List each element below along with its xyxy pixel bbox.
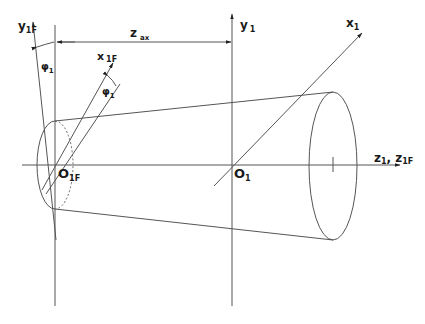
cone-bottom-edge bbox=[55, 209, 333, 240]
label-x1: x1 bbox=[346, 16, 360, 32]
label-phi1-right: φ1 bbox=[102, 86, 115, 100]
x1-axis-line bbox=[214, 33, 362, 186]
label-x1f: x1F bbox=[97, 50, 117, 64]
label-z-ax: zax bbox=[130, 26, 150, 42]
label-y1f: y1F bbox=[18, 19, 37, 35]
label-y1: y1 bbox=[240, 18, 256, 34]
phi1-left-arc bbox=[37, 42, 54, 47]
label-phi1-left: φ1 bbox=[41, 61, 54, 75]
x1f-axis-line bbox=[42, 63, 113, 190]
y1f-axis-line bbox=[33, 22, 56, 240]
label-o1: O1 bbox=[234, 166, 251, 183]
label-z-axis: z1, z1F bbox=[374, 151, 413, 166]
phi1-right-arc bbox=[108, 76, 116, 86]
cone-coordinate-diagram: y1F φ1 zax x1F φ1 y1 x1 O1F O1 z1, z1F bbox=[0, 0, 425, 324]
label-o1f: O1F bbox=[58, 166, 80, 183]
